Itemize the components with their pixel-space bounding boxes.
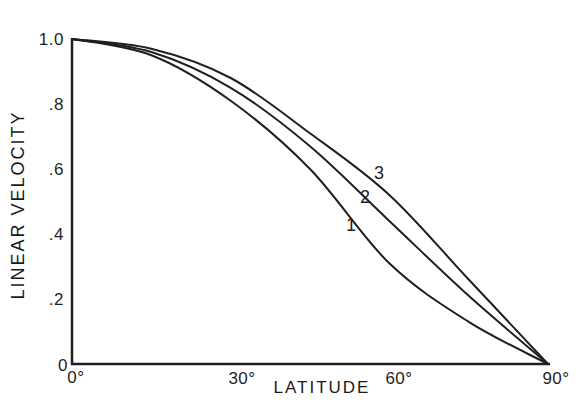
x-tick-60: 60° — [369, 370, 429, 387]
y-tick-0-8: .8 — [24, 96, 64, 113]
curve-2 — [72, 39, 548, 364]
x-axis-title: LATITUDE — [274, 378, 371, 398]
x-tick-0: 0° — [46, 369, 106, 386]
curve-1 — [72, 39, 548, 364]
chart-canvas — [0, 0, 582, 404]
x-tick-30: 30° — [212, 370, 272, 387]
x-tick-90: 90° — [526, 370, 582, 387]
curve-label-3: 3 — [374, 164, 384, 182]
y-tick-0-6: .6 — [24, 161, 64, 178]
axes — [71, 38, 550, 365]
y-tick-1-0: 1.0 — [24, 31, 64, 48]
y-tick-0-2: .2 — [24, 291, 64, 308]
series-group — [72, 39, 548, 364]
curve-label-1: 1 — [346, 216, 356, 234]
y-axis-title: LINEAR VELOCITY — [8, 110, 29, 299]
y-tick-0-4: .4 — [24, 226, 64, 243]
curve-label-2: 2 — [360, 188, 370, 206]
curve-3 — [72, 39, 548, 364]
